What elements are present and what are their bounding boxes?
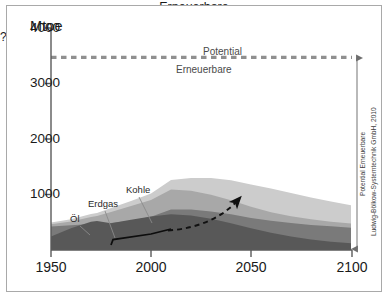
series-label-kohle: Kohle	[126, 184, 150, 195]
x-tick-label-1950: 1950	[23, 259, 79, 275]
figure-container: Mtoe 4000 3000 2000 1000 1950 2000 2050 …	[0, 0, 388, 298]
stacked-area-series	[51, 178, 351, 250]
x-tick-label-2050: 2050	[223, 259, 279, 275]
potential-line-label-bottom: Erneuerbare	[176, 64, 232, 75]
series-label-erdgas: Erdgas	[88, 198, 118, 209]
y-tick-label-3000: 3000	[18, 75, 60, 90]
chart-canvas	[0, 0, 388, 298]
y-tick-label-2000: 2000	[18, 131, 60, 146]
y-tick-label-1000: 1000	[18, 186, 60, 201]
potential-line-label-top: Potential	[203, 46, 242, 57]
y-tick-label-4000: 4000	[18, 20, 60, 35]
series-label-oel: Öl	[70, 213, 80, 224]
x-tick-label-2100: 2100	[324, 259, 380, 275]
source-credit-label: Ludwig-Bölkow-Systemtechnik GmbH, 2010	[370, 107, 377, 236]
side-bracket-label-potential: Potential Erneuerbare	[359, 132, 366, 196]
x-tick-label-2000: 2000	[123, 259, 179, 275]
